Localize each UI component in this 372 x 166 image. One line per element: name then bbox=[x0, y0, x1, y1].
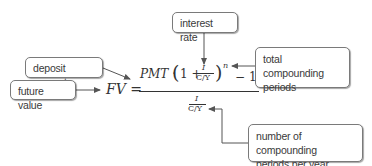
arrow-deposit-amount bbox=[103, 68, 130, 79]
total-periods-label-line2: periods bbox=[263, 80, 342, 94]
future-value-label: future value bbox=[18, 85, 44, 111]
periods-per-year-label-line2: periods per year bbox=[256, 157, 355, 166]
formula-lhs: FV = bbox=[106, 81, 142, 97]
close-paren: ) bbox=[215, 61, 222, 83]
minus-one-term: − 1 bbox=[235, 70, 257, 84]
rate-denominator: C/Y bbox=[196, 73, 210, 82]
total-periods-label-line1: total compounding bbox=[263, 52, 342, 80]
arrow-periods-per-year bbox=[209, 109, 248, 143]
interest-rate-callout: interest rate bbox=[172, 12, 238, 33]
denominator-denominator: C/Y bbox=[188, 104, 202, 113]
main-fraction-bar bbox=[139, 91, 259, 92]
rate-numerator: I bbox=[202, 63, 205, 72]
total-compounding-periods-callout: total compounding periods bbox=[255, 47, 350, 88]
numerator: PMT · bbox=[140, 67, 176, 81]
equals-sign: = bbox=[130, 81, 142, 97]
denominator-numerator: I bbox=[195, 94, 198, 103]
fv-symbol: FV bbox=[106, 81, 126, 97]
periods-per-year-label-line1: number of compounding bbox=[256, 129, 355, 157]
deposit-amount-callout: deposit amount bbox=[25, 57, 103, 78]
periods-per-year-callout: number of compounding periods per year bbox=[248, 124, 363, 162]
future-value-callout: future value bbox=[10, 80, 76, 100]
exponent-n: n bbox=[223, 61, 228, 70]
open-paren: ( bbox=[172, 61, 179, 83]
pmt-symbol: PMT bbox=[140, 67, 168, 81]
